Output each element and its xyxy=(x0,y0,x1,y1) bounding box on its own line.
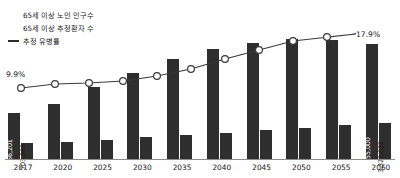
line-marker xyxy=(154,73,161,80)
prevalence-end-label: 17.9% xyxy=(356,30,380,39)
plot-area: 7,066,201 703,968 xyxy=(0,0,400,178)
chart-container: 65세 이상 노인 인구수 65세 이상 추정환자 수 추정 유병률 7,066… xyxy=(0,0,400,178)
line-marker xyxy=(120,78,127,85)
prevalence-line xyxy=(0,0,400,178)
line-marker xyxy=(324,34,331,41)
x-tick-label: 2060 xyxy=(366,163,396,175)
x-tick-label: 2045 xyxy=(247,163,277,175)
x-tick-label: 2050 xyxy=(286,163,316,175)
x-tick-label: 2017 xyxy=(8,163,38,175)
line-marker xyxy=(86,80,93,87)
line-marker xyxy=(188,66,195,73)
x-axis-labels: 2017 2020 2025 2030 2035 2040 2045 2050 … xyxy=(8,163,396,175)
line-marker xyxy=(256,47,263,54)
line-marker xyxy=(18,85,25,92)
x-tick-label: 2025 xyxy=(88,163,118,175)
x-tick-label: 2035 xyxy=(167,163,197,175)
line-marker xyxy=(52,81,59,88)
x-axis-line xyxy=(5,159,395,160)
x-tick-label: 2020 xyxy=(48,163,78,175)
line-marker xyxy=(222,56,229,63)
prevalence-start-label: 9.9% xyxy=(6,70,25,79)
x-tick-label: 2040 xyxy=(207,163,237,175)
line-marker xyxy=(290,38,297,45)
x-tick-label: 2055 xyxy=(326,163,356,175)
x-tick-label: 2030 xyxy=(127,163,157,175)
